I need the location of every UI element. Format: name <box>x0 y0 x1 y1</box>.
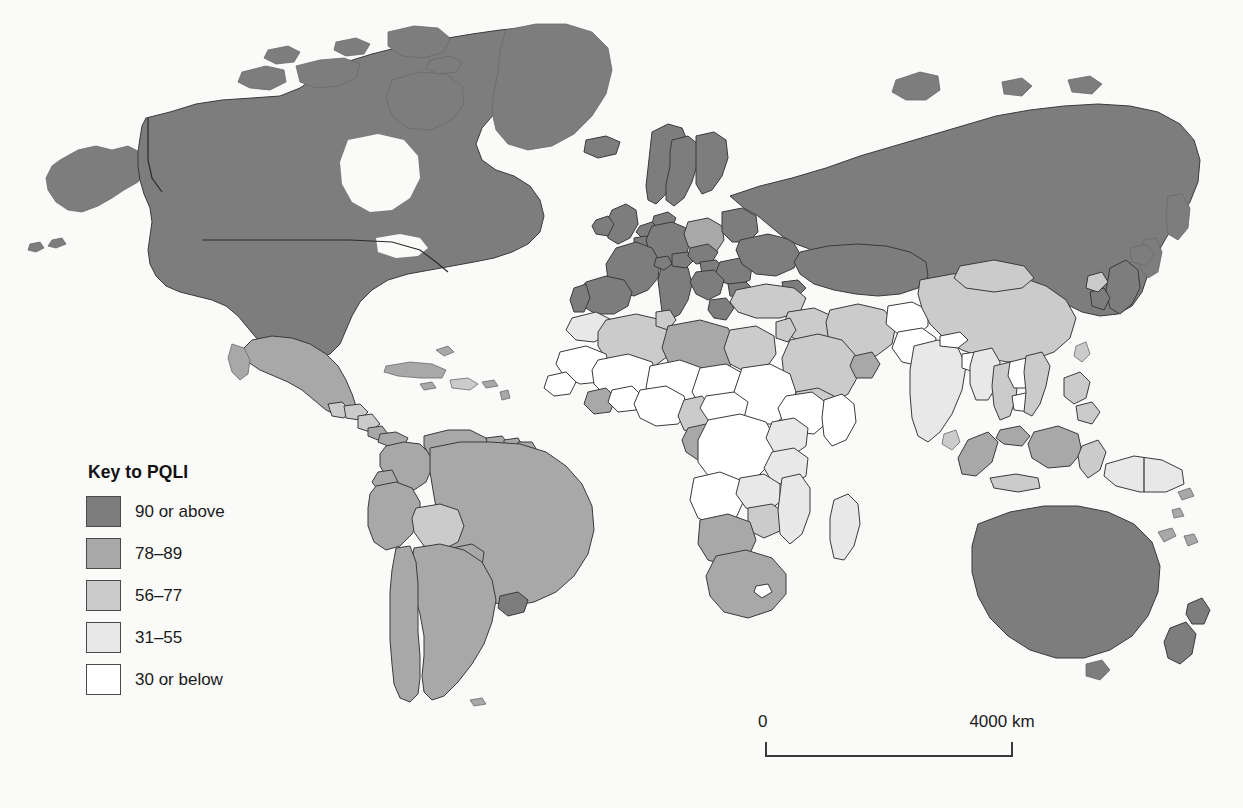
scale-tick-end <box>1011 742 1013 756</box>
scale-line <box>765 755 1013 757</box>
island-lesser-antilles <box>500 390 510 400</box>
legend-swatch-90-or-above <box>86 496 121 527</box>
legend-label-90-or-above: 90 or above <box>135 503 225 520</box>
legend-swatch-78-89 <box>86 538 121 569</box>
map-legend: Key to PQLI 90 or above 78–89 56–77 31–5… <box>86 462 301 703</box>
scale-label-zero: 0 <box>758 712 767 732</box>
legend-label-78-89: 78–89 <box>135 545 182 562</box>
legend-label-30-or-below: 30 or below <box>135 671 223 688</box>
legend-label-31-55: 31–55 <box>135 629 182 646</box>
legend-swatch-31-55 <box>86 622 121 653</box>
scale-graphic <box>765 742 1013 756</box>
legend-item-78-89: 78–89 <box>86 535 301 571</box>
scale-labels: 0 4000 km <box>758 712 1028 738</box>
scale-tick-start <box>765 742 767 756</box>
legend-swatch-30-or-below <box>86 664 121 695</box>
country-iceland <box>584 136 620 158</box>
legend-item-56-77: 56–77 <box>86 577 301 613</box>
legend-item-30-or-below: 30 or below <box>86 661 301 697</box>
legend-swatch-56-77 <box>86 580 121 611</box>
map-scale-bar: 0 4000 km <box>758 712 1028 772</box>
legend-item-90-or-above: 90 or above <box>86 493 301 529</box>
country-chile <box>390 546 420 702</box>
map-page: .c90{fill:#7d7d7d;} .c78{fill:#a8a8a8;} … <box>0 0 1243 808</box>
legend-item-31-55: 31–55 <box>86 619 301 655</box>
legend-title: Key to PQLI <box>88 462 301 483</box>
legend-label-56-77: 56–77 <box>135 587 182 604</box>
scale-label-max: 4000 km <box>969 712 1034 732</box>
